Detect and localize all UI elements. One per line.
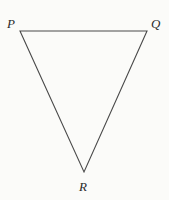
- geometry-figure: P Q R: [0, 0, 169, 200]
- vertex-label-p: P: [7, 17, 15, 30]
- triangle-pqr-shape: [20, 31, 147, 172]
- triangle-diagram-svg: [0, 0, 169, 200]
- vertex-label-r: R: [79, 180, 87, 193]
- vertex-label-q: Q: [151, 17, 160, 30]
